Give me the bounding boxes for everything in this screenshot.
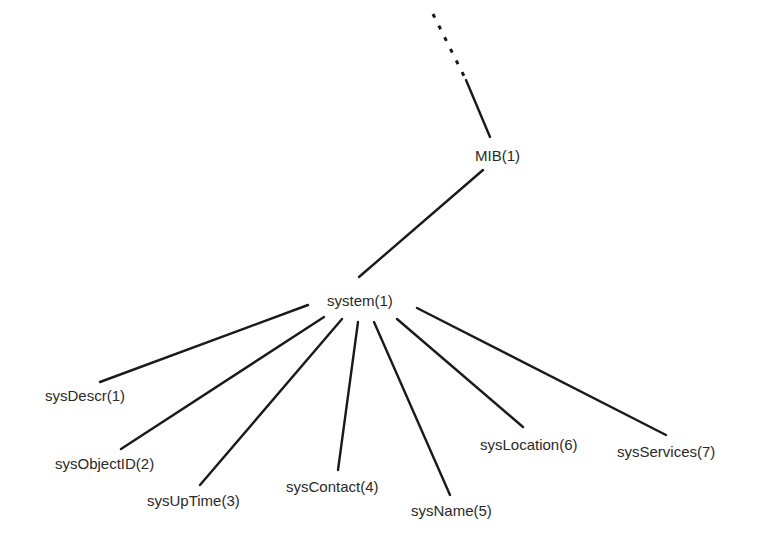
edge-syslocation — [397, 319, 523, 427]
node-mib: MIB(1) — [475, 147, 520, 164]
node-sysobjectid: sysObjectID(2) — [55, 455, 154, 472]
node-sysservices: sysServices(7) — [617, 443, 715, 460]
edge-sysuptime — [200, 319, 342, 485]
edge-syscontact — [338, 322, 358, 470]
node-syscontact: sysContact(4) — [286, 478, 379, 495]
edge-sysservices — [417, 308, 666, 435]
edge-sysdescr — [100, 305, 308, 382]
parent-ellipsis-edge — [433, 14, 466, 80]
edge-sysname — [374, 322, 450, 495]
node-sysname: sysName(5) — [411, 502, 492, 519]
node-syslocation: sysLocation(6) — [480, 436, 578, 453]
mib-tree-diagram: MIB(1) system(1) sysDescr(1) sysObjectID… — [0, 0, 761, 551]
node-sysuptime: sysUpTime(3) — [147, 492, 240, 509]
parent-to-mib-edge — [466, 80, 490, 137]
mib-to-system-edge — [359, 170, 483, 277]
node-sysdescr: sysDescr(1) — [45, 387, 125, 404]
node-system: system(1) — [327, 292, 393, 309]
